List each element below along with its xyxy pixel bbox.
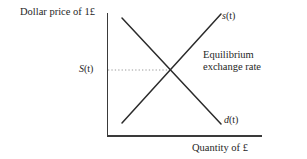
demand-curve-argument: (t) bbox=[229, 114, 238, 125]
equilibrium-price-tick-label: S(t) bbox=[79, 63, 93, 74]
equilibrium-annotation-line-2: exchange rate bbox=[203, 61, 261, 73]
equilibrium-price-argument: (t) bbox=[84, 63, 93, 74]
equilibrium-annotation-line-1: Equilibrium bbox=[203, 49, 261, 61]
demand-curve-label: d(t) bbox=[224, 114, 238, 125]
supply-curve-argument: (t) bbox=[226, 10, 235, 21]
equilibrium-annotation: Equilibriumexchange rate bbox=[203, 49, 261, 73]
supply-curve-label: s(t) bbox=[222, 10, 235, 21]
plot-area bbox=[0, 0, 307, 159]
x-axis-label: Quantity of £ bbox=[192, 142, 248, 154]
exchange-rate-supply-demand-figure: Dollar price of 1£ Quantity of £ S(t) s(… bbox=[0, 0, 307, 159]
y-axis-label: Dollar price of 1£ bbox=[20, 6, 95, 18]
